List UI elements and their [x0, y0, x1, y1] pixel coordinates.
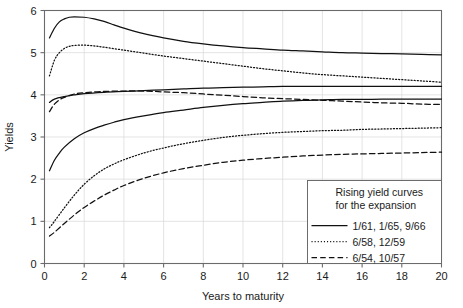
- legend-entry-label: 6/58, 12/59: [353, 236, 406, 248]
- legend-entry-label: 6/54, 10/57: [353, 252, 406, 264]
- x-tick-label: 14: [316, 270, 328, 282]
- y-tick-labels: 0123456: [30, 5, 36, 270]
- y-tick-label: 6: [30, 5, 36, 17]
- curve-dotted-upper: [49, 45, 441, 82]
- x-tick-label: 16: [356, 270, 368, 282]
- x-tick-label: 0: [41, 270, 47, 282]
- x-tick-label: 10: [237, 270, 249, 282]
- curve-solid-upper: [49, 17, 441, 55]
- legend-title-line: Rising yield curves: [336, 186, 424, 198]
- y-tick-label: 4: [30, 89, 36, 101]
- y-tick-label: 2: [30, 173, 36, 185]
- x-tick-label: 2: [81, 270, 87, 282]
- x-tick-label: 6: [161, 270, 167, 282]
- yield-curve-chart: 02468101214161820 0123456 Years to matur…: [0, 0, 463, 308]
- legend-title-line: for the expansion: [336, 199, 417, 211]
- curve-solid-middle-upper: [49, 86, 441, 102]
- y-tick-label: 0: [30, 258, 36, 270]
- chart-legend: Rising yield curvesfor the expansion1/61…: [308, 181, 442, 264]
- y-axis-title: Yields: [3, 122, 15, 152]
- x-tick-label: 4: [121, 270, 127, 282]
- x-tick-label: 18: [396, 270, 408, 282]
- x-axis-title: Years to maturity: [202, 290, 285, 302]
- x-tick-label: 8: [200, 270, 206, 282]
- x-tick-label: 20: [435, 270, 447, 282]
- chart-canvas: 02468101214161820 0123456 Years to matur…: [0, 0, 463, 308]
- x-tick-label: 12: [277, 270, 289, 282]
- legend-entry-label: 1/61, 1/65, 9/66: [353, 220, 426, 232]
- y-tick-label: 5: [30, 47, 36, 59]
- y-tick-label: 3: [30, 131, 36, 143]
- x-tick-labels: 02468101214161820: [41, 270, 447, 282]
- y-tick-label: 1: [30, 215, 36, 227]
- curve-dashed-upper: [49, 91, 441, 112]
